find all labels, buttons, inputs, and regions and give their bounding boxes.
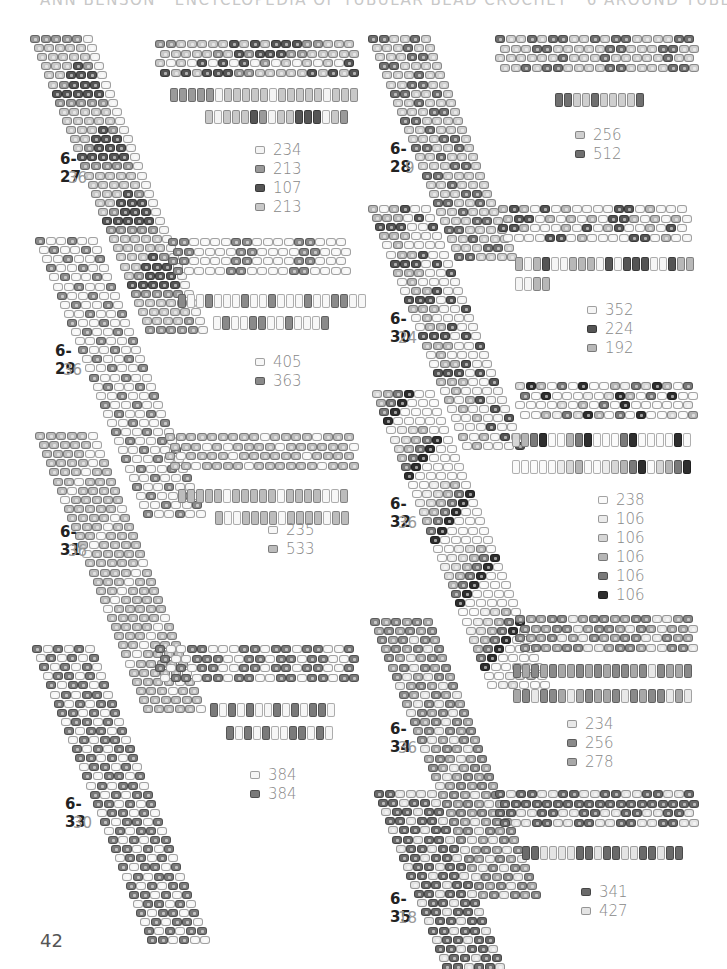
bead-count: 384 [268, 766, 297, 784]
bead [532, 64, 542, 72]
bead [102, 162, 112, 170]
bead [418, 305, 428, 313]
bead-count: 192 [605, 339, 634, 357]
strip-bead [277, 294, 285, 308]
strip-bead [584, 460, 592, 474]
strip-bead [215, 511, 223, 525]
bead [653, 35, 663, 43]
bead [684, 35, 694, 43]
bead [221, 257, 231, 265]
bead [465, 226, 475, 234]
bead [318, 50, 328, 58]
bead [281, 40, 291, 48]
bead [78, 681, 88, 689]
bead [99, 292, 109, 300]
bead [129, 474, 139, 482]
bead [413, 673, 423, 681]
bead [349, 50, 359, 58]
bead [561, 205, 571, 213]
strip-bead [298, 726, 306, 740]
bead [100, 401, 110, 409]
bead [135, 355, 145, 363]
bead [57, 654, 67, 662]
bead [445, 727, 455, 735]
strip-bead [260, 88, 268, 102]
bead [587, 215, 597, 223]
strip-bead [593, 433, 601, 447]
bead [85, 283, 95, 291]
bead [221, 238, 231, 246]
bead [175, 927, 185, 935]
strip-bead [558, 689, 566, 703]
bead [439, 108, 449, 116]
bead [247, 267, 257, 275]
legend-row: 235 [268, 520, 315, 539]
bead [66, 126, 76, 134]
bead [406, 817, 416, 825]
bead [519, 205, 529, 213]
bead [625, 625, 635, 633]
bead [422, 314, 432, 322]
bead [131, 374, 141, 382]
bead [427, 682, 437, 690]
bead [445, 836, 455, 844]
bead [218, 452, 228, 460]
bead [315, 238, 325, 246]
legend-row: 106 [598, 528, 645, 547]
bead [96, 310, 106, 318]
bead [196, 705, 206, 713]
strip-bead [295, 110, 303, 124]
bead [598, 215, 608, 223]
strip-bead [259, 294, 267, 308]
bead [145, 326, 155, 334]
bead [470, 899, 480, 907]
bead [526, 401, 536, 409]
bead [629, 215, 639, 223]
strip-bead [666, 664, 674, 678]
bead [168, 909, 178, 917]
bead [407, 251, 417, 259]
bead [481, 818, 491, 826]
bead [68, 681, 78, 689]
bead [66, 71, 76, 79]
bead [229, 645, 239, 653]
bead [611, 809, 621, 817]
bead [184, 248, 194, 256]
bead [689, 819, 699, 827]
bead [631, 634, 641, 642]
bead [143, 873, 153, 881]
bead [472, 563, 482, 571]
bead [35, 432, 45, 440]
bead [474, 963, 484, 969]
strip-bead [259, 110, 267, 124]
bead [526, 634, 536, 642]
strip-bead [269, 88, 277, 102]
bead [636, 625, 646, 633]
strip-bead [674, 460, 682, 474]
strip-bead [512, 460, 520, 474]
bead [483, 536, 493, 544]
strip-bead [540, 689, 548, 703]
bead [265, 674, 275, 682]
bead [428, 764, 438, 772]
bead [621, 790, 631, 798]
bead [520, 891, 530, 899]
strip-bead [585, 846, 593, 860]
bead [148, 253, 158, 261]
bead [87, 153, 97, 161]
bead [106, 283, 116, 291]
bead [429, 360, 439, 368]
pattern-repeat: 24 [398, 329, 417, 347]
bead [662, 634, 672, 642]
bead [379, 232, 389, 240]
bead [479, 433, 489, 441]
bead [121, 346, 131, 354]
bead [446, 126, 456, 134]
bead [625, 644, 635, 652]
bead [514, 234, 524, 242]
bead [136, 909, 146, 917]
bead [421, 35, 431, 43]
pattern-repeat: 36 [68, 169, 87, 187]
bead [397, 251, 407, 259]
bead [154, 510, 164, 518]
